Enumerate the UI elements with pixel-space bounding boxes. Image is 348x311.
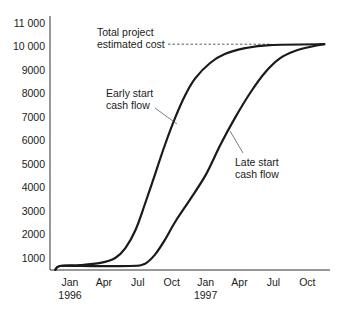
- cash-flow-chart: 10002000300040005000600070008000900010 0…: [0, 0, 348, 311]
- early-start-label-line2: cash flow: [106, 99, 150, 111]
- y-tick-label: 11 000: [14, 17, 45, 29]
- x-tick-label: Apr: [231, 276, 248, 288]
- early-start-leader-line: [155, 108, 177, 124]
- x-tick-label: Oct: [299, 276, 315, 288]
- y-tick-label: 1000: [22, 252, 46, 264]
- y-tick-label: 5000: [22, 158, 46, 170]
- x-tick-label: Oct: [164, 276, 180, 288]
- y-tick-label: 2000: [22, 228, 46, 240]
- y-tick-label: 6000: [22, 134, 46, 146]
- y-tick-label: 4000: [22, 181, 46, 193]
- y-tick-label: 7000: [22, 111, 46, 123]
- late-start-label-line1: Late start: [235, 156, 279, 168]
- y-axis-tick-labels: 10002000300040005000600070008000900010 0…: [13, 17, 45, 265]
- x-axis-tick-labels: Jan1996AprJulOctJan1997AprJulOct: [58, 276, 315, 301]
- total-cost-label-line1: Total project: [97, 26, 154, 38]
- y-tick-label: 3000: [22, 205, 46, 217]
- total-cost-label-line2: estimated cost: [97, 38, 165, 50]
- early-start-label-line1: Early start: [106, 87, 153, 99]
- late-start-leader-line: [230, 131, 243, 153]
- y-tick-label: 10 000: [13, 40, 45, 52]
- late-start-label-line2: cash flow: [235, 168, 279, 180]
- x-tick-label: Jan: [62, 276, 79, 288]
- x-tick-label: Jul: [131, 276, 144, 288]
- y-tick-label: 9000: [22, 64, 46, 76]
- y-tick-label: 8000: [22, 87, 46, 99]
- early-start-curve: [55, 44, 324, 270]
- late-start-curve: [55, 44, 324, 270]
- x-tick-label: Jan: [197, 276, 214, 288]
- x-tick-year-label: 1996: [58, 289, 82, 301]
- x-tick-label: Jul: [267, 276, 280, 288]
- x-tick-label: Apr: [96, 276, 113, 288]
- x-tick-year-label: 1997: [194, 289, 218, 301]
